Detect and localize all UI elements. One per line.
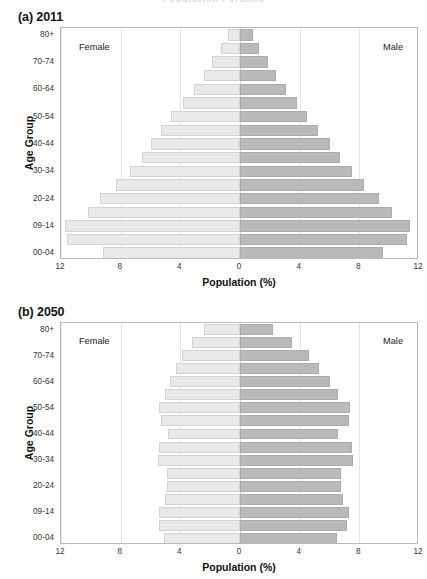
bar-female: [103, 247, 240, 258]
female-label-2011: Female: [79, 42, 110, 52]
bar-female: [159, 442, 240, 453]
y-tick-label: 70-74: [33, 57, 54, 66]
bar-male: [240, 507, 349, 518]
gridline: [359, 323, 360, 543]
x-tick-label: 0: [237, 547, 242, 556]
y-axis-ticks-2050: 00-0409-1420-2430-3440-4450-5460-6470-74…: [18, 322, 58, 544]
bar-female: [183, 97, 240, 108]
bar-male: [240, 152, 340, 163]
bar-female: [130, 166, 240, 177]
bar-female: [204, 70, 240, 81]
bar-female: [168, 429, 240, 440]
bar-male: [240, 533, 337, 544]
y-axis-ticks-2011: 00-0409-1420-2430-3440-4450-5460-6470-74…: [18, 27, 58, 259]
bar-male: [240, 442, 352, 453]
chart-panel-2011: (a) 2011 Age Group 00-0409-1420-2430-344…: [0, 10, 427, 295]
y-tick-label: 30-34: [33, 455, 54, 464]
bar-male: [240, 179, 364, 190]
bar-female: [167, 468, 240, 479]
y-tick-label: 00-04: [33, 533, 54, 542]
y-tick-label: 60-64: [33, 376, 54, 385]
gridline: [121, 323, 122, 543]
bar-male: [240, 247, 383, 258]
bar-male: [240, 520, 347, 531]
x-axis-ticks-2050: 128404812: [60, 546, 418, 560]
bar-male: [240, 468, 341, 479]
x-tick-label: 8: [356, 262, 361, 271]
gridline: [61, 323, 62, 543]
y-tick-label: 50-54: [33, 111, 54, 120]
bar-male: [240, 166, 352, 177]
male-label-2011: Male: [383, 42, 403, 52]
x-tick-label: 0: [237, 262, 242, 271]
chart-panel-2050: (b) 2050 Age Group 00-0409-1420-2430-344…: [0, 305, 427, 579]
page-header-fragment: Population Pyramid: [0, 0, 427, 2]
male-label-2050: Male: [383, 336, 403, 346]
bar-female: [159, 520, 240, 531]
bar-male: [240, 337, 292, 348]
bar-female: [165, 494, 240, 505]
bar-male: [240, 220, 410, 231]
x-tick-label: 12: [413, 547, 422, 556]
x-tick-label: 4: [177, 547, 182, 556]
bar-male: [240, 363, 319, 374]
bar-male: [240, 494, 343, 505]
y-tick-label: 09-14: [33, 220, 54, 229]
bar-male: [240, 125, 318, 136]
x-tick-label: 12: [413, 262, 422, 271]
bar-female: [161, 415, 240, 426]
plot-area-2050: Female Male: [60, 322, 418, 544]
x-tick-label: 4: [296, 547, 301, 556]
female-label-2050: Female: [79, 336, 110, 346]
bar-male: [240, 324, 273, 335]
y-tick-label: 70-74: [33, 350, 54, 359]
bar-female: [194, 84, 240, 95]
page-root: Population Pyramid (a) 2011 Age Group 00…: [0, 0, 427, 579]
bar-male: [240, 43, 259, 54]
y-tick-label: 80+: [40, 324, 54, 333]
bar-female: [170, 376, 240, 387]
x-tick-label: 8: [356, 547, 361, 556]
bar-male: [240, 138, 330, 149]
bar-female: [171, 111, 240, 122]
y-tick-label: 30-34: [33, 166, 54, 175]
bar-male: [240, 193, 379, 204]
bar-female: [204, 324, 240, 335]
bar-female: [228, 29, 240, 40]
bar-female: [158, 455, 240, 466]
bar-female: [182, 350, 240, 361]
x-tick-label: 4: [177, 262, 182, 271]
y-tick-label: 80+: [40, 29, 54, 38]
y-tick-label: 09-14: [33, 507, 54, 516]
bar-female: [212, 56, 240, 67]
bar-male: [240, 389, 338, 400]
bar-female: [88, 207, 240, 218]
x-tick-label: 12: [55, 262, 64, 271]
x-tick-label: 4: [296, 262, 301, 271]
x-tick-label: 8: [117, 262, 122, 271]
bar-male: [240, 429, 338, 440]
x-axis-title-2050: Population (%): [60, 561, 418, 573]
y-tick-label: 50-54: [33, 402, 54, 411]
bar-female: [100, 193, 240, 204]
x-axis-title-2011: Population (%): [60, 276, 418, 288]
bar-female: [142, 152, 240, 163]
plot-area-2011: Female Male: [60, 27, 418, 259]
bar-female: [167, 481, 240, 492]
bar-female: [192, 337, 240, 348]
bar-male: [240, 97, 297, 108]
bar-female: [67, 234, 240, 245]
bar-male: [240, 29, 253, 40]
bar-male: [240, 350, 309, 361]
bar-female: [161, 125, 240, 136]
bar-female: [221, 43, 240, 54]
bar-female: [116, 179, 240, 190]
bar-male: [240, 84, 286, 95]
bar-male: [240, 402, 350, 413]
bar-female: [176, 363, 240, 374]
bar-female: [65, 220, 240, 231]
bar-male: [240, 234, 407, 245]
bar-female: [159, 402, 240, 413]
bar-male: [240, 111, 307, 122]
bar-female: [164, 533, 240, 544]
